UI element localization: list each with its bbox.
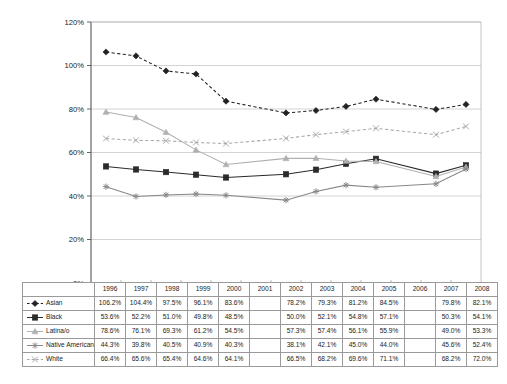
diamond-marker <box>463 101 469 107</box>
data-point-marker-star <box>433 181 439 187</box>
table-cell: 83.6% <box>219 297 250 311</box>
table-row: Latina/o78.6%76.1%69.3%61.2%54.5%57.3%57… <box>23 325 498 339</box>
legend-marker-square <box>26 312 44 323</box>
diamond-marker <box>433 106 439 112</box>
data-point-marker-star <box>133 193 139 199</box>
table-cell: 66.4% <box>95 353 126 367</box>
series-line <box>106 52 466 113</box>
table-cell: 45.6% <box>436 339 467 353</box>
table-cell: 69.3% <box>157 325 188 339</box>
data-point-marker-triangle <box>193 147 199 152</box>
table-cell: 96.1% <box>188 297 219 311</box>
y-axis-tick-label: 120% <box>65 18 85 27</box>
table-cell: 52.4% <box>467 339 498 353</box>
data-point-marker-star <box>313 188 319 194</box>
square-marker <box>313 167 318 172</box>
table-cell: 56.1% <box>343 325 374 339</box>
legend-item-native-american[interactable]: Native American <box>23 339 95 353</box>
series-asian <box>103 49 469 116</box>
legend-label: Native American <box>46 342 94 349</box>
table-cell <box>405 297 436 311</box>
table-cell <box>405 325 436 339</box>
data-point-marker-square <box>163 169 168 174</box>
table-cell: 66.5% <box>281 353 312 367</box>
square-icon <box>26 312 44 323</box>
table-cell <box>405 339 436 353</box>
legend-label: Black <box>46 314 62 321</box>
line-chart-svg: 0%20%40%60%80%100%120% <box>0 0 507 300</box>
table-cell <box>250 325 281 339</box>
gridlines-group: 0%20%40%60%80%100%120% <box>65 18 481 288</box>
table-column-header-2003: 2003 <box>312 283 343 297</box>
table-column-header-1996: 1996 <box>95 283 126 297</box>
table-cell: 64.6% <box>188 353 219 367</box>
data-point-marker-diamond <box>343 103 349 109</box>
table-cell: 78.2% <box>281 297 312 311</box>
data-point-marker-square <box>133 167 138 172</box>
triangle-marker <box>103 109 109 114</box>
data-point-marker-star <box>103 184 109 190</box>
square-marker <box>193 172 198 177</box>
table-cell: 49.0% <box>436 325 467 339</box>
table-column-header-2001: 2001 <box>250 283 281 297</box>
table-column-header-1999: 1999 <box>188 283 219 297</box>
table-cell: 40.5% <box>157 339 188 353</box>
legend-item-asian[interactable]: Asian <box>23 297 95 311</box>
table-column-header-2002: 2002 <box>281 283 312 297</box>
table-cell <box>250 353 281 367</box>
table-column-header-2007: 2007 <box>436 283 467 297</box>
square-marker <box>133 167 138 172</box>
table-cell: 79.3% <box>312 297 343 311</box>
triangle-marker <box>163 129 169 134</box>
table-cell: 68.2% <box>436 353 467 367</box>
table-cell: 53.3% <box>467 325 498 339</box>
table-cell: 64.1% <box>219 353 250 367</box>
table-cell: 76.1% <box>126 325 157 339</box>
chart-page: 0%20%40%60%80%100%120% 19961997199819992… <box>0 0 507 384</box>
square-marker <box>283 172 288 177</box>
data-point-marker-square <box>32 315 37 320</box>
table-cell: 50.0% <box>281 311 312 325</box>
table-cell: 54.5% <box>219 325 250 339</box>
table-cell: 54.8% <box>343 311 374 325</box>
data-point-marker-diamond <box>373 96 379 102</box>
table-cell: 50.3% <box>436 311 467 325</box>
diamond-marker <box>32 300 38 306</box>
legend-item-latina-o[interactable]: Latina/o <box>23 325 95 339</box>
legend-label: White <box>46 356 63 363</box>
table-cell: 39.8% <box>126 339 157 353</box>
diamond-marker <box>133 53 139 59</box>
y-axis-tick-label: 40% <box>69 192 84 201</box>
table-cell: 82.1% <box>467 297 498 311</box>
table-cell: 49.8% <box>188 311 219 325</box>
table-cell: 40.3% <box>219 339 250 353</box>
table-cell: 68.2% <box>312 353 343 367</box>
table-cell: 48.5% <box>219 311 250 325</box>
diamond-marker <box>163 68 169 74</box>
table-cell: 57.4% <box>312 325 343 339</box>
table-cell <box>405 353 436 367</box>
table-cell: 57.3% <box>281 325 312 339</box>
data-point-marker-star <box>343 182 349 188</box>
diamond-marker <box>343 103 349 109</box>
legend-item-white[interactable]: White <box>23 353 95 367</box>
data-point-marker-square <box>103 164 108 169</box>
data-point-marker-square <box>193 172 198 177</box>
data-point-marker-cross <box>433 132 439 138</box>
table-cell <box>250 339 281 353</box>
y-axis-tick-label: 100% <box>65 61 85 70</box>
chart-plot-area: 0%20%40%60%80%100%120% <box>0 0 507 300</box>
data-point-marker-diamond <box>163 68 169 74</box>
table-column-header-2008: 2008 <box>467 283 498 297</box>
triangle-icon <box>26 326 44 337</box>
data-point-marker-diamond <box>463 101 469 107</box>
triangle-marker <box>193 147 199 152</box>
table-corner-cell <box>23 283 95 297</box>
data-point-marker-diamond <box>103 49 109 55</box>
series-line <box>106 112 466 176</box>
table-cell: 65.4% <box>157 353 188 367</box>
table-cell: 52.1% <box>312 311 343 325</box>
legend-item-black[interactable]: Black <box>23 311 95 325</box>
table-cell: 44.0% <box>374 339 405 353</box>
data-point-marker-diamond <box>433 106 439 112</box>
